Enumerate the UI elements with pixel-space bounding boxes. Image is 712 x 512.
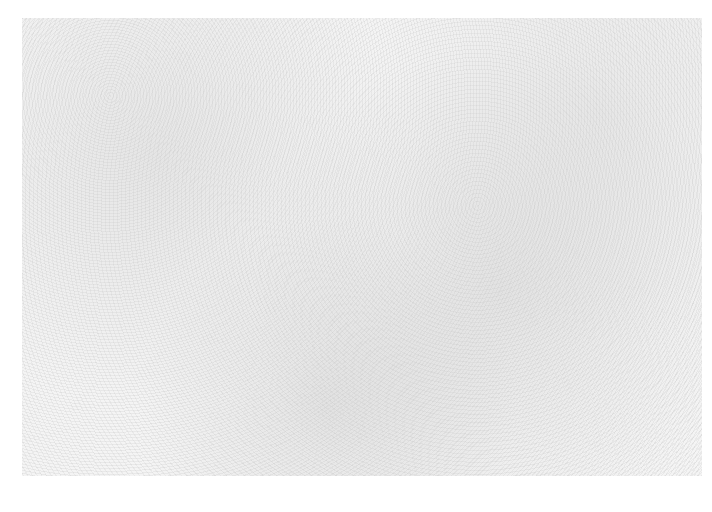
paper-texture — [22, 18, 702, 476]
